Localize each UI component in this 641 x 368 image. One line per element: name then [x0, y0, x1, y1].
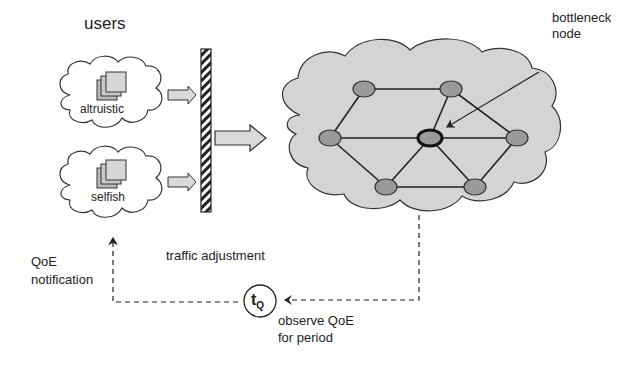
- network-cloud: [282, 39, 560, 211]
- bottleneck-label-line2: node: [552, 26, 581, 42]
- bottleneck-node: [418, 130, 442, 146]
- qoe-notification-line2: notification: [31, 272, 93, 288]
- selfish-label: selfish: [91, 190, 125, 204]
- altruistic-label: altruistic: [80, 102, 124, 116]
- qoe-notification-line1: QoE: [31, 254, 57, 270]
- timer-label: tQ: [251, 290, 264, 312]
- network-node: [506, 130, 528, 146]
- timer-subscript: Q: [256, 300, 264, 311]
- bottleneck-label-line1: bottleneck: [552, 10, 611, 26]
- selfish-cloud: [60, 146, 162, 217]
- observe-line1: observe QoE: [278, 313, 354, 329]
- observe-line2: for period: [278, 330, 333, 346]
- traffic-adjustment-barrier: [201, 49, 211, 212]
- network-node: [464, 179, 486, 195]
- network-node: [319, 130, 341, 146]
- altruistic-cloud: [60, 56, 162, 127]
- traffic-adjustment-label: traffic adjustment: [166, 248, 265, 264]
- network-node: [440, 81, 462, 97]
- selfish-arrow: [168, 173, 196, 191]
- users-label: users: [84, 14, 126, 34]
- network-node: [375, 179, 397, 195]
- network-input-arrow: [215, 125, 266, 151]
- network-node: [353, 81, 375, 97]
- altruistic-arrow: [168, 86, 196, 104]
